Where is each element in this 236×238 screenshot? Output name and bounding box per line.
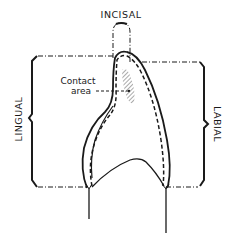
contact-label-line2: area xyxy=(71,86,91,96)
lingual-inner-curve xyxy=(91,106,113,178)
cervical-line xyxy=(92,159,164,187)
contact-label-line1: Contact xyxy=(60,76,95,86)
lingual-label: LINGUAL xyxy=(13,96,24,141)
contact-area-hatch xyxy=(122,69,135,103)
tooth-diagram: INCISAL LINGUAL LABIAL Contact area xyxy=(0,0,236,238)
labial-label: LABIAL xyxy=(212,106,223,142)
incisal-cap xyxy=(116,23,127,24)
diagram-canvas: INCISAL LINGUAL LABIAL Contact area xyxy=(0,0,236,238)
incisal-label: INCISAL xyxy=(101,9,142,20)
